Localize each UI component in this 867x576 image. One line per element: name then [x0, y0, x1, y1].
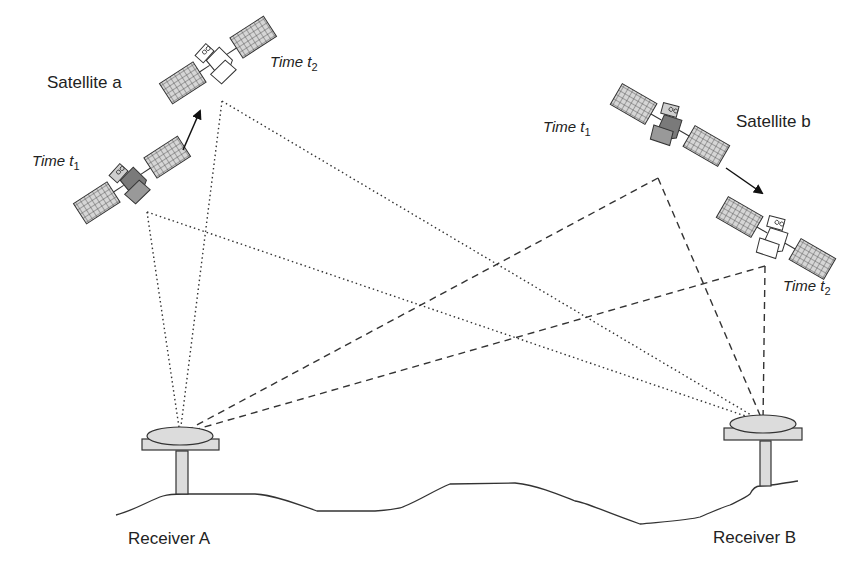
- satellite-b-time-t1-label: Time t1: [543, 118, 591, 138]
- time-prefix: Time t: [783, 277, 825, 294]
- receiver-b-antenna: [724, 415, 802, 486]
- satellite-b-t1-icon: [605, 76, 734, 175]
- time-subscript: 2: [825, 285, 831, 297]
- satellite-a-time-t2-label: Time t2: [270, 53, 318, 73]
- terrain-line: [116, 481, 798, 524]
- time-subscript: 2: [312, 61, 318, 73]
- satellite-b-time-t2-label: Time t2: [783, 277, 831, 297]
- satellite-b-label: Satellite b: [736, 112, 811, 132]
- receiver-a-label: Receiver A: [128, 529, 210, 549]
- satellite-b-motion-arrow: [726, 168, 762, 193]
- diagram-canvas: [0, 0, 867, 576]
- time-prefix: Time t: [543, 118, 585, 135]
- satellite-a-signal-lines: [147, 101, 763, 434]
- satellite-a-motion-arrow: [183, 111, 200, 150]
- satellite-a-t2-icon: [155, 9, 282, 112]
- gps-double-difference-diagram: Satellite a Satellite b Time t1 Time t2 …: [0, 0, 867, 576]
- time-prefix: Time t: [32, 152, 74, 169]
- satellite-a-time-t1-label: Time t1: [32, 152, 80, 172]
- receiver-a-antenna: [142, 427, 219, 494]
- satellite-a-label: Satellite a: [47, 73, 122, 93]
- time-subscript: 1: [585, 126, 591, 138]
- satellite-b-signal-lines: [180, 178, 765, 434]
- receiver-b-label: Receiver B: [713, 528, 796, 548]
- time-subscript: 1: [74, 160, 80, 172]
- time-prefix: Time t: [270, 53, 312, 70]
- satellite-b-t2-icon: [711, 189, 840, 288]
- satellite-a-t1-icon: [69, 129, 196, 232]
